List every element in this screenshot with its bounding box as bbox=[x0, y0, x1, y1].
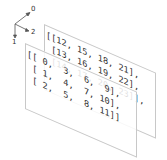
axis-label-2: 2 bbox=[31, 28, 35, 36]
axis-2-arrowhead bbox=[26, 29, 30, 32]
axis-2-arrow bbox=[15, 24, 27, 30]
axis-label-0: 0 bbox=[31, 5, 35, 13]
axis-0-arrow bbox=[15, 14, 28, 24]
axis-label-1: 1 bbox=[12, 38, 16, 46]
